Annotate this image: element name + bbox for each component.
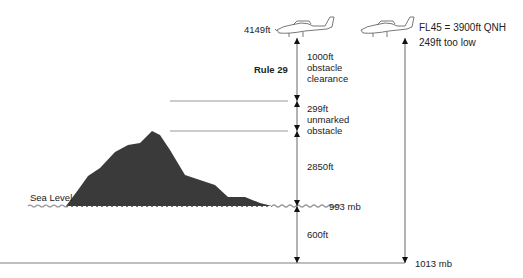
terrain-mountain	[66, 131, 272, 206]
airplane-icon	[361, 17, 414, 37]
rule-label: Rule 29	[254, 64, 288, 75]
segment-msl-label: 600ft	[307, 229, 328, 240]
sea-level-label: Sea Level	[30, 192, 72, 203]
segment-clearance-label: 1000ft obstacle clearance	[307, 51, 348, 84]
segment-obstacle-label: 299ft unmarked obstacle	[307, 103, 349, 136]
too-low-label: 249ft too low	[419, 37, 476, 48]
segment-terrain-label: 2850ft	[307, 161, 333, 172]
airplane-icon	[275, 17, 334, 37]
aircraft-altitude-label: 4149ft	[244, 24, 270, 35]
sea-level-pressure-label: 993 mb	[329, 201, 361, 212]
flight-level-label: FL45 = 3900ft QNH	[419, 22, 506, 33]
standard-pressure-label: 1013 mb	[415, 258, 452, 269]
